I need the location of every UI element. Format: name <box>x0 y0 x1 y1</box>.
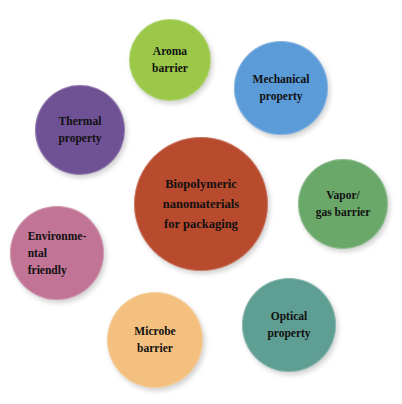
circle-label: Thermal property <box>58 113 101 147</box>
circle-vapor-gas-barrier: Vapor/ gas barrier <box>298 159 388 249</box>
central-label: Biopolymeric nanomaterials for packaging <box>163 174 239 234</box>
circle-label: Aroma barrier <box>152 43 188 77</box>
circle-label: Environme- ntal friendly <box>28 228 87 279</box>
circle-thermal-property: Thermal property <box>35 85 125 175</box>
circle-microbe-barrier: Microbe barrier <box>107 292 203 388</box>
circle-label: Vapor/ gas barrier <box>316 187 371 221</box>
circle-label: Microbe barrier <box>134 323 175 357</box>
circle-aroma-barrier: Aroma barrier <box>129 19 211 101</box>
circle-optical-property: Optical property <box>242 278 336 372</box>
central-circle: Biopolymeric nanomaterials for packaging <box>134 137 268 271</box>
circle-label: Mechanical property <box>253 71 310 105</box>
circle-environmental-friendly: Environme- ntal friendly <box>10 206 104 300</box>
circle-label: Optical property <box>267 308 310 342</box>
circle-mechanical-property: Mechanical property <box>234 41 328 135</box>
